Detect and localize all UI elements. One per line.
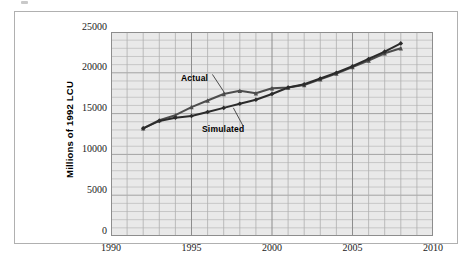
series-label-simulated: Simulated <box>202 124 244 134</box>
plot-svg <box>111 32 433 236</box>
chart-figure: Millions of 1992 LCU 0500010000150002000… <box>0 0 474 256</box>
annotation-leader-lines <box>212 74 243 125</box>
y-axis-tick-label: 20000 <box>55 62 107 72</box>
series-label-actual: Actual <box>181 73 208 83</box>
x-axis-tick-label: 1990 <box>85 242 137 253</box>
y-axis-tick-label: 10000 <box>55 144 107 154</box>
x-axis-tick-label: 2005 <box>327 242 379 253</box>
plot-area <box>111 32 433 236</box>
x-axis-tick-label: 2000 <box>246 242 298 253</box>
y-axis-tick-label: 5000 <box>55 185 107 195</box>
y-axis-tick-labels: 0500010000150002000025000 <box>51 12 107 256</box>
chart-frame: Millions of 1992 LCU 0500010000150002000… <box>14 11 458 244</box>
y-axis-tick-label: 0 <box>55 226 107 236</box>
y-axis-tick-label: 25000 <box>55 22 107 32</box>
x-axis-tick-label: 2010 <box>407 242 459 253</box>
y-axis-tick-label: 15000 <box>55 103 107 113</box>
x-axis-tick-label: 1995 <box>166 242 218 253</box>
vertical-gridlines <box>111 32 433 236</box>
page-artifact-speck <box>21 1 28 4</box>
